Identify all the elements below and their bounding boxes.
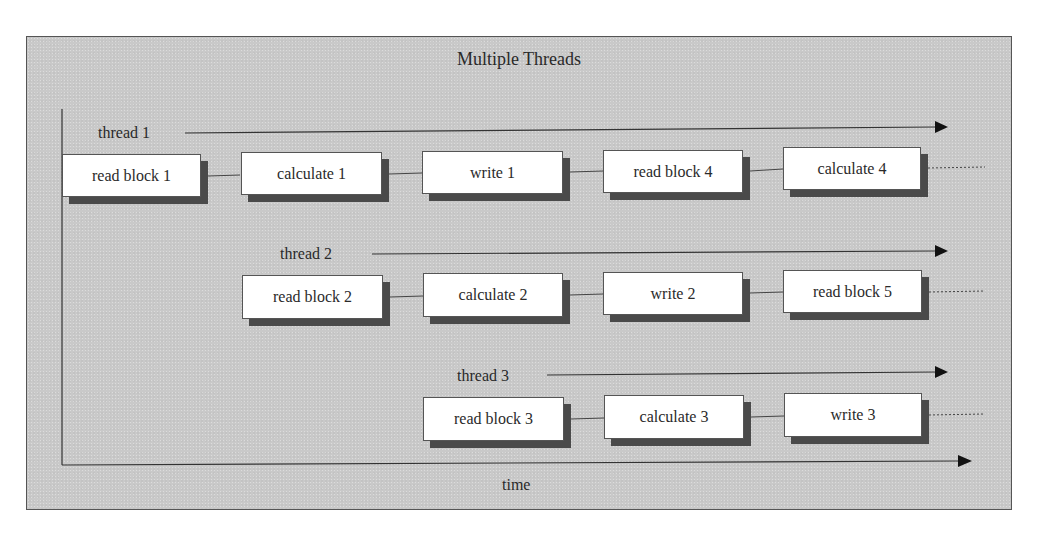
thread-1-label: thread 1 — [98, 124, 150, 142]
time-axis-arrowhead-icon — [958, 455, 972, 467]
task-box: calculate 1 — [241, 152, 382, 195]
thread-2-continuation-line — [929, 291, 985, 292]
thread-2-arrow-line — [372, 251, 936, 254]
task-box: read block 4 — [603, 150, 743, 193]
task-box: read block 3 — [423, 397, 564, 441]
task-box: calculate 4 — [783, 147, 921, 190]
task-box: write 2 — [603, 272, 743, 315]
time-axis-label: time — [502, 476, 530, 494]
thread-1-arrow-line — [185, 127, 936, 133]
thread-3-label: thread 3 — [457, 367, 509, 385]
task-box: calculate 3 — [604, 395, 744, 439]
task-box: read block 5 — [783, 270, 922, 313]
task-box: calculate 2 — [423, 273, 563, 317]
thread-3-arrowhead-icon — [935, 366, 948, 378]
task-box: read block 2 — [242, 275, 383, 319]
thread-3-arrow-line — [547, 372, 936, 375]
thread-1-continuation-line — [928, 167, 985, 168]
thread-2-arrowhead-icon — [935, 245, 948, 257]
thread-2-label: thread 2 — [280, 245, 332, 263]
task-box: write 3 — [784, 393, 922, 437]
thread-3-continuation-line — [929, 414, 985, 415]
thread-1-arrowhead-icon — [935, 121, 948, 133]
time-axis-line — [62, 461, 960, 465]
task-box: read block 1 — [62, 154, 201, 197]
task-box: write 1 — [422, 151, 563, 194]
